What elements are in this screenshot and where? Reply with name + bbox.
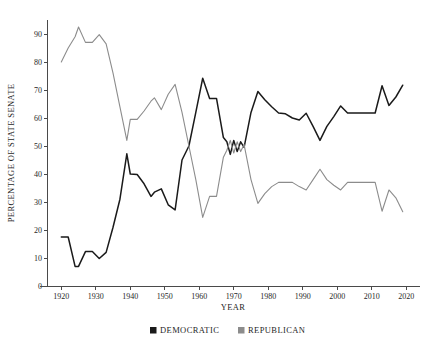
y-tick-label: 80 — [34, 58, 42, 67]
legend-label-republican: REPUBLICAN — [248, 325, 305, 335]
x-tick-label: 1960 — [191, 292, 207, 301]
y-tick-label: 70 — [34, 86, 42, 95]
y-tick-label: 20 — [34, 226, 42, 235]
y-tick-label: 60 — [34, 114, 42, 123]
x-tick-group: 1920193019401950196019701980199020002010… — [53, 287, 414, 302]
x-axis-title: YEAR — [221, 302, 246, 312]
line-chart: 0102030405060708090 PERCENTAGE OF STATE … — [0, 0, 426, 349]
x-axis: 1920193019401950196019701980199020002010… — [40, 287, 420, 313]
x-tick-label: 2000 — [329, 292, 345, 301]
series-line-republican — [61, 27, 402, 217]
y-axis: 0102030405060708090 PERCENTAGE OF STATE … — [6, 20, 48, 291]
y-tick-group: 0102030405060708090 — [34, 30, 48, 291]
x-tick-label: 1970 — [226, 292, 242, 301]
x-tick-label: 1940 — [122, 292, 138, 301]
y-tick-label: 10 — [34, 254, 42, 263]
x-tick-label: 2020 — [398, 292, 414, 301]
y-tick-label: 50 — [34, 142, 42, 151]
chart-legend: DEMOCRATICREPUBLICAN — [150, 325, 305, 335]
x-tick-label: 1990 — [295, 292, 311, 301]
x-tick-label: 2010 — [364, 292, 380, 301]
y-tick-label: 40 — [34, 170, 42, 179]
legend-swatch-democratic — [150, 327, 157, 334]
x-tick-label: 1950 — [157, 292, 173, 301]
legend-swatch-republican — [238, 327, 245, 334]
x-tick-label: 1920 — [53, 292, 69, 301]
legend-label-democratic: DEMOCRATIC — [160, 325, 219, 335]
series-line-democratic — [61, 78, 402, 266]
y-tick-label: 90 — [34, 30, 42, 39]
series-group — [61, 27, 402, 266]
y-tick-label: 30 — [34, 198, 42, 207]
x-tick-label: 1930 — [88, 292, 104, 301]
y-axis-title: PERCENTAGE OF STATE SENATE — [6, 84, 16, 223]
chart-container: 0102030405060708090 PERCENTAGE OF STATE … — [0, 0, 426, 349]
x-tick-label: 1980 — [260, 292, 276, 301]
